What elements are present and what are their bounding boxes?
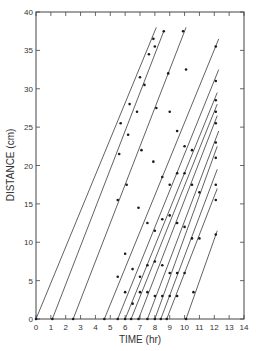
data-point (139, 76, 142, 79)
data-point (116, 318, 119, 321)
data-point (118, 153, 121, 156)
data-point (72, 318, 75, 321)
x-tick-label: 5 (108, 323, 113, 332)
data-point (127, 134, 130, 137)
data-point (152, 38, 155, 41)
data-point (183, 272, 186, 275)
data-point (191, 183, 194, 186)
y-tick-label: 15 (24, 200, 33, 209)
x-axis-title: TIME (hr) (119, 334, 161, 345)
data-point (191, 237, 194, 240)
data-point (136, 110, 139, 113)
data-point (130, 318, 133, 321)
data-point (161, 264, 164, 267)
data-point (154, 45, 157, 48)
data-point (185, 318, 188, 321)
data-point (167, 72, 170, 75)
x-tick-label: 0 (34, 323, 39, 332)
x-tick-label: 14 (240, 323, 249, 332)
y-tick-label: 20 (24, 162, 33, 171)
data-point (148, 53, 151, 56)
data-point (161, 176, 164, 179)
data-point (176, 272, 179, 275)
data-point (176, 295, 179, 298)
x-tick-label: 9 (167, 323, 172, 332)
data-point (161, 218, 164, 221)
data-point (183, 145, 186, 148)
data-point (152, 160, 155, 163)
y-tick-label: 25 (24, 123, 33, 132)
data-point (214, 80, 217, 83)
data-point (214, 199, 217, 202)
data-point (140, 149, 143, 152)
data-point (214, 157, 217, 160)
data-point (168, 110, 171, 113)
x-tick-label: 3 (78, 323, 83, 332)
y-axis-title: DISTANCE (cm) (5, 129, 16, 202)
data-point (116, 275, 119, 278)
distance-time-chart: 01234567891011121314 0510152025303540 TI… (0, 0, 256, 351)
x-tick-label: 8 (153, 323, 158, 332)
data-point (146, 264, 149, 267)
data-point (154, 295, 157, 298)
data-point (155, 107, 158, 110)
data-point (214, 110, 217, 113)
y-tick-label: 0 (29, 315, 34, 324)
data-point (168, 295, 171, 298)
y-tick-label: 40 (24, 8, 33, 17)
data-point (137, 318, 140, 321)
data-point (154, 229, 157, 232)
data-point (183, 172, 186, 175)
data-point (182, 30, 185, 33)
data-point (131, 302, 134, 305)
data-point (35, 318, 38, 321)
data-point (214, 122, 217, 125)
data-point (124, 318, 127, 321)
data-point (51, 318, 54, 321)
data-point (103, 318, 106, 321)
data-point (168, 214, 171, 217)
data-point (161, 295, 164, 298)
x-tick-label: 1 (49, 323, 54, 332)
data-point (214, 141, 217, 144)
data-point (214, 45, 217, 48)
x-tick-label: 4 (93, 323, 98, 332)
y-tick-label: 10 (24, 238, 33, 247)
data-point (176, 172, 179, 175)
x-tick-label: 12 (210, 323, 219, 332)
data-point (160, 318, 163, 321)
data-point (128, 103, 131, 106)
data-point (191, 149, 194, 152)
data-point (139, 291, 142, 294)
data-point (198, 191, 201, 194)
data-point (154, 260, 157, 263)
data-point (168, 272, 171, 275)
data-point (183, 226, 186, 229)
data-point (198, 237, 201, 240)
data-point (124, 252, 127, 255)
data-point (116, 199, 119, 202)
data-point (176, 130, 179, 133)
x-tick-label: 13 (225, 323, 234, 332)
data-point (146, 222, 149, 225)
data-point (214, 99, 217, 102)
x-tick-label: 2 (63, 323, 68, 332)
y-tick-label: 35 (24, 46, 33, 55)
data-point (125, 183, 128, 186)
data-point (137, 206, 140, 209)
x-tick-label: 6 (123, 323, 128, 332)
data-point (192, 291, 195, 294)
data-point (143, 84, 146, 87)
data-point (168, 183, 171, 186)
data-point (214, 233, 217, 236)
data-point (154, 318, 157, 321)
data-point (146, 318, 149, 321)
data-point (165, 318, 168, 321)
data-point (214, 183, 217, 186)
data-point (146, 291, 149, 294)
x-tick-label: 11 (195, 323, 204, 332)
x-tick-label: 10 (180, 323, 189, 332)
data-point (124, 291, 127, 294)
data-point (139, 275, 142, 278)
y-tick-label: 30 (24, 85, 33, 94)
